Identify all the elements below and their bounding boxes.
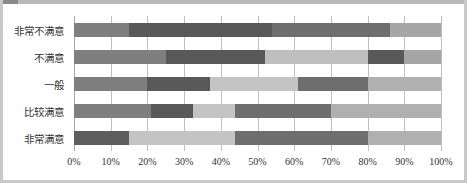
bar-segment — [368, 77, 441, 91]
bar-segment — [368, 131, 441, 145]
bar-segment — [74, 77, 147, 91]
y-axis-tick-label: 不满意 — [34, 49, 64, 64]
gridline-100 — [441, 16, 442, 151]
bar-row — [74, 104, 441, 118]
figure-bottom-border — [0, 180, 467, 183]
x-axis-tick-label: 40% — [212, 156, 230, 167]
bar-segment — [129, 131, 235, 145]
y-axis-tick-label: 非常不满意 — [14, 22, 64, 37]
x-axis-tick-label: 50% — [248, 156, 266, 167]
bar-segment — [74, 131, 129, 145]
bar-segment — [151, 104, 193, 118]
bar-segment — [193, 104, 235, 118]
bar-segment — [74, 104, 151, 118]
bar-segment — [265, 50, 368, 64]
x-axis-tick-label: 20% — [138, 156, 156, 167]
bar-segment — [390, 23, 441, 37]
y-axis-labels: 非常不满意不满意一般比较满意非常满意 — [0, 16, 70, 151]
chart-figure: 非常不满意不满意一般比较满意非常满意 0%10%20%30%40%50%60%7… — [0, 0, 467, 183]
x-axis-tick-label: 60% — [285, 156, 303, 167]
bar-segment — [166, 50, 265, 64]
bar-row — [74, 23, 441, 37]
x-axis-tick-label: 70% — [322, 156, 340, 167]
bar-row — [74, 77, 441, 91]
bar-segment — [404, 50, 441, 64]
y-axis-tick-label: 比较满意 — [24, 103, 64, 118]
bar-segment — [147, 77, 209, 91]
bar-segment — [74, 23, 129, 37]
x-axis-tick-label: 0% — [67, 156, 80, 167]
bar-segment — [210, 77, 298, 91]
y-axis-tick-label: 非常满意 — [24, 130, 64, 145]
bar-row — [74, 50, 441, 64]
bar-segment — [235, 104, 330, 118]
x-axis-labels: 0%10%20%30%40%50%60%70%80%90%100% — [74, 156, 441, 176]
bar-segment — [74, 50, 166, 64]
bar-row — [74, 131, 441, 145]
bar-segment — [331, 104, 441, 118]
x-axis-tick-label: 30% — [175, 156, 193, 167]
bar-segment — [235, 131, 367, 145]
bar-segment — [129, 23, 272, 37]
plot-area — [74, 16, 441, 151]
x-axis-tick-label: 80% — [358, 156, 376, 167]
bar-segment — [368, 50, 405, 64]
x-axis-tick-label: 10% — [102, 156, 120, 167]
y-axis-tick-label: 一般 — [44, 76, 64, 91]
bar-segment — [272, 23, 389, 37]
bar-segment — [298, 77, 368, 91]
figure-top-border — [0, 0, 467, 4]
x-axis-tick-label: 90% — [395, 156, 413, 167]
x-axis-tick-label: 100% — [429, 156, 452, 167]
